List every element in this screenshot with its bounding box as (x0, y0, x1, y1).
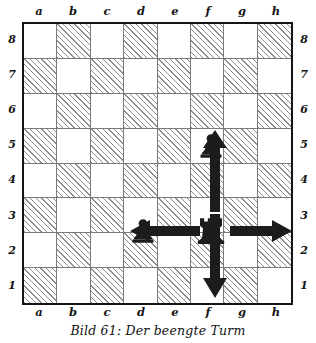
board-squares (24, 24, 291, 303)
square-d7[interactable] (124, 59, 157, 94)
square-d5[interactable] (124, 129, 157, 164)
rank-label-left-8: 8 (4, 33, 20, 47)
square-h8[interactable] (258, 24, 291, 59)
square-b6[interactable] (57, 94, 90, 129)
square-d1[interactable] (124, 268, 157, 303)
square-b1[interactable] (57, 268, 90, 303)
square-e4[interactable] (158, 164, 191, 199)
square-a4[interactable] (24, 164, 57, 199)
chess-board[interactable] (22, 22, 293, 305)
file-label-bottom-b: b (56, 305, 90, 319)
rank-label-left-5: 5 (4, 138, 20, 152)
square-c1[interactable] (91, 268, 124, 303)
square-f7[interactable] (191, 59, 224, 94)
square-e6[interactable] (158, 94, 191, 129)
square-b8[interactable] (57, 24, 90, 59)
square-e8[interactable] (158, 24, 191, 59)
file-label-bottom-f: f (191, 305, 225, 319)
chess-figure: a b c d e f g h a b c d e f g h 8 7 6 5 … (0, 0, 316, 343)
arrow-down-icon (198, 214, 232, 300)
square-e1[interactable] (158, 268, 191, 303)
square-a8[interactable] (24, 24, 57, 59)
square-c2[interactable] (91, 233, 124, 268)
rank-label-left-6: 6 (4, 103, 20, 117)
file-label-bottom-d: d (124, 305, 158, 319)
square-a7[interactable] (24, 59, 57, 94)
file-label-top-b: b (56, 4, 90, 18)
square-b2[interactable] (57, 233, 90, 268)
figure-caption: Bild 61: Der beengte Turm (0, 323, 316, 338)
square-a1[interactable] (24, 268, 57, 303)
rank-label-right-3: 3 (296, 209, 312, 223)
file-label-top-d: d (124, 4, 158, 18)
square-h6[interactable] (258, 94, 291, 129)
square-e5[interactable] (158, 129, 191, 164)
square-b5[interactable] (57, 129, 90, 164)
file-label-bottom-g: g (225, 305, 259, 319)
file-label-top-c: c (90, 4, 124, 18)
square-h4[interactable] (258, 164, 291, 199)
file-label-bottom-a: a (22, 305, 56, 319)
square-b7[interactable] (57, 59, 90, 94)
square-g6[interactable] (224, 94, 257, 129)
square-a2[interactable] (24, 233, 57, 268)
square-c5[interactable] (91, 129, 124, 164)
square-f6[interactable] (191, 94, 224, 129)
rank-label-right-7: 7 (296, 68, 312, 82)
arrow-right-icon (230, 214, 293, 248)
file-label-top-a: a (22, 4, 56, 18)
square-c3[interactable] (91, 198, 124, 233)
rank-label-left-3: 3 (4, 209, 20, 223)
square-g8[interactable] (224, 24, 257, 59)
square-d8[interactable] (124, 24, 157, 59)
rank-label-left-7: 7 (4, 68, 20, 82)
rank-label-left-4: 4 (4, 173, 20, 187)
square-c7[interactable] (91, 59, 124, 94)
square-d4[interactable] (124, 164, 157, 199)
square-h1[interactable] (258, 268, 291, 303)
file-label-bottom-h: h (259, 305, 293, 319)
square-b3[interactable] (57, 198, 90, 233)
square-d6[interactable] (124, 94, 157, 129)
rank-label-right-5: 5 (296, 138, 312, 152)
rank-label-left-2: 2 (4, 244, 20, 258)
square-a3[interactable] (24, 198, 57, 233)
rank-label-right-1: 1 (296, 279, 312, 293)
square-a6[interactable] (24, 94, 57, 129)
file-label-top-g: g (225, 4, 259, 18)
file-label-top-e: e (158, 4, 192, 18)
square-g7[interactable] (224, 59, 257, 94)
square-c6[interactable] (91, 94, 124, 129)
square-h5[interactable] (258, 129, 291, 164)
arrow-left-icon (128, 214, 200, 248)
arrow-up-icon (198, 128, 232, 212)
file-label-top-f: f (191, 4, 225, 18)
square-e7[interactable] (158, 59, 191, 94)
rank-label-right-6: 6 (296, 103, 312, 117)
file-label-bottom-e: e (158, 305, 192, 319)
square-f8[interactable] (191, 24, 224, 59)
rank-label-right-8: 8 (296, 33, 312, 47)
file-label-bottom-c: c (90, 305, 124, 319)
rank-label-left-1: 1 (4, 279, 20, 293)
square-h7[interactable] (258, 59, 291, 94)
file-label-top-h: h (259, 4, 293, 18)
square-c8[interactable] (91, 24, 124, 59)
square-a5[interactable] (24, 129, 57, 164)
rank-label-right-4: 4 (296, 173, 312, 187)
square-b4[interactable] (57, 164, 90, 199)
rank-label-right-2: 2 (296, 244, 312, 258)
square-c4[interactable] (91, 164, 124, 199)
